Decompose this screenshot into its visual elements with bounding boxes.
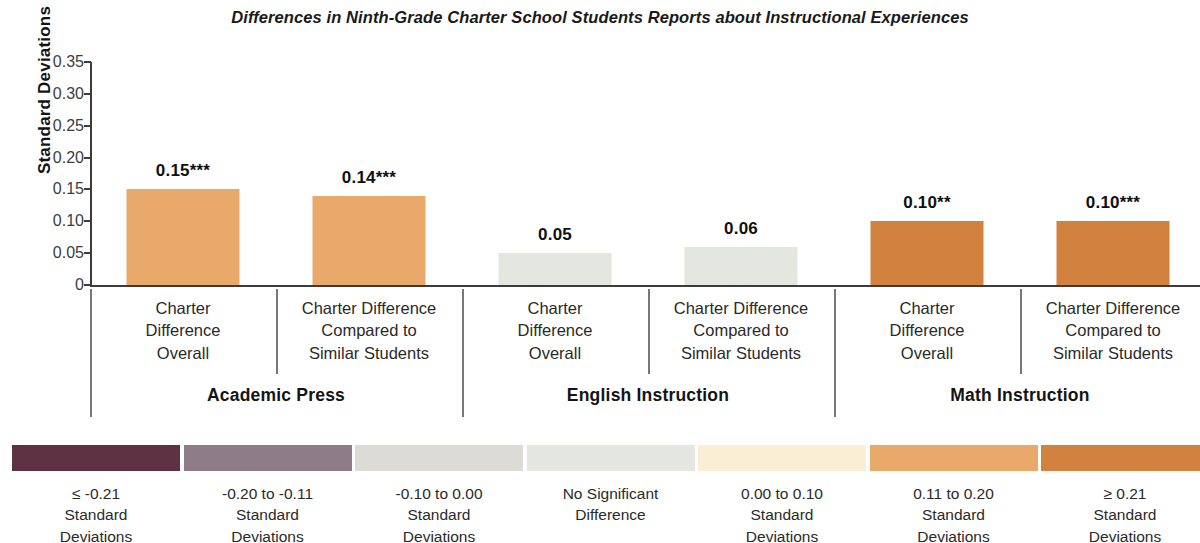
subcolumn-divider <box>648 289 650 374</box>
y-axis-tick-label: 0.25 <box>28 118 84 134</box>
y-axis-tick-label: 0.15 <box>28 181 84 197</box>
legend-color-swatch <box>527 445 695 471</box>
y-axis-tick-label: 0.10 <box>28 213 84 229</box>
bar[interactable] <box>127 189 240 285</box>
category-label: CharterDifferenceOverall <box>462 287 648 379</box>
legend-label: No SignificantDifference <box>527 483 695 526</box>
legend-label-line: Standard <box>184 504 352 525</box>
bar[interactable] <box>1057 221 1170 285</box>
legend-color-swatch <box>1041 445 1200 471</box>
bar-cell: 0.14*** <box>276 62 462 285</box>
bar-value-label: 0.10*** <box>1086 193 1140 213</box>
legend-label-line: 0.11 to 0.20 <box>870 483 1038 504</box>
legend-label-line: Standard <box>12 504 180 525</box>
legend-label: ≥ 0.21StandardDeviations <box>1041 483 1200 543</box>
y-axis-tick-label: 0 <box>28 277 84 293</box>
category-label-line: Compared to <box>1020 319 1200 341</box>
legend-label-line: Deviations <box>184 526 352 543</box>
category-label-line: Difference <box>90 319 276 341</box>
legend-label-line: ≥ 0.21 <box>1041 483 1200 504</box>
bar-value-label: 0.10** <box>903 193 951 213</box>
category-label-band: CharterDifferenceOverallCharter Differen… <box>90 287 1200 379</box>
bar-value-label: 0.14*** <box>342 168 396 188</box>
legend-label-line: Deviations <box>1041 526 1200 543</box>
group-label: Math Instruction <box>834 385 1200 406</box>
category-label-line: Compared to <box>648 319 834 341</box>
category-label: CharterDifferenceOverall <box>834 287 1020 379</box>
legend-label-line: Deviations <box>698 526 866 543</box>
chart-figure: Differences in Ninth-Grade Charter Schoo… <box>0 0 1200 543</box>
category-label: Charter DifferenceCompared toSimilar Stu… <box>1020 287 1200 379</box>
bar-cell: 0.05 <box>462 62 648 285</box>
legend-label-line: Standard <box>1041 504 1200 525</box>
legend-color-swatch <box>184 445 352 471</box>
category-label-line: Charter Difference <box>1020 297 1200 319</box>
group-label: Academic Press <box>90 385 462 406</box>
chart-legend: ≤ -0.21StandardDeviations-0.20 to -0.11S… <box>0 445 1200 543</box>
bar[interactable] <box>685 247 798 285</box>
category-label-line: Charter <box>462 297 648 319</box>
category-label: Charter DifferenceCompared toSimilar Stu… <box>648 287 834 379</box>
group-label-band: Academic PressEnglish InstructionMath In… <box>90 385 1200 419</box>
y-axis-tick-label: 0.20 <box>28 150 84 166</box>
category-label-line: Overall <box>90 342 276 364</box>
legend-label: 0.00 to 0.10StandardDeviations <box>698 483 866 543</box>
category-label-line: Difference <box>462 319 648 341</box>
category-label-line: Similar Students <box>276 342 462 364</box>
legend-label-line: Standard <box>698 504 866 525</box>
category-label-line: Difference <box>834 319 1020 341</box>
category-label-line: Compared to <box>276 319 462 341</box>
y-axis-label: Standard Deviations <box>35 0 55 205</box>
category-label-line: Similar Students <box>1020 342 1200 364</box>
bar-value-label: 0.15*** <box>156 161 210 181</box>
legend-item[interactable]: 0.11 to 0.20StandardDeviations <box>870 445 1038 543</box>
legend-label: 0.11 to 0.20StandardDeviations <box>870 483 1038 543</box>
bar-cell: 0.15*** <box>90 62 276 285</box>
legend-item[interactable]: -0.10 to 0.00StandardDeviations <box>355 445 523 543</box>
legend-label-line: 0.00 to 0.10 <box>698 483 866 504</box>
legend-color-swatch <box>12 445 180 471</box>
legend-color-swatch <box>698 445 866 471</box>
legend-label: ≤ -0.21StandardDeviations <box>12 483 180 543</box>
legend-label-line: Difference <box>527 504 695 525</box>
category-label-line: Overall <box>834 342 1020 364</box>
legend-item[interactable]: ≥ 0.21StandardDeviations <box>1041 445 1200 543</box>
legend-item[interactable]: -0.20 to -0.11StandardDeviations <box>184 445 352 543</box>
bar[interactable] <box>499 253 612 285</box>
legend-label-line: No Significant <box>527 483 695 504</box>
category-label-line: Charter Difference <box>648 297 834 319</box>
legend-label-line: ≤ -0.21 <box>12 483 180 504</box>
group-label: English Instruction <box>462 385 834 406</box>
legend-label-line: -0.20 to -0.11 <box>184 483 352 504</box>
chart-title: Differences in Ninth-Grade Charter Schoo… <box>0 8 1200 27</box>
bars-layer: 0.15***0.14***0.050.060.10**0.10*** <box>90 62 1200 287</box>
legend-item[interactable]: 0.00 to 0.10StandardDeviations <box>698 445 866 543</box>
legend-label-line: Deviations <box>355 526 523 543</box>
category-label-line: Similar Students <box>648 342 834 364</box>
subcolumn-divider <box>1020 289 1022 374</box>
bar[interactable] <box>313 196 426 285</box>
category-label: Charter DifferenceCompared toSimilar Stu… <box>276 287 462 379</box>
legend-label-line: -0.10 to 0.00 <box>355 483 523 504</box>
legend-label-line: Deviations <box>870 526 1038 543</box>
legend-label: -0.20 to -0.11StandardDeviations <box>184 483 352 543</box>
legend-label-line: Deviations <box>12 526 180 543</box>
legend-label: -0.10 to 0.00StandardDeviations <box>355 483 523 543</box>
bar-cell: 0.06 <box>648 62 834 285</box>
y-axis-tick-label: 0.05 <box>28 245 84 261</box>
bar[interactable] <box>871 221 984 285</box>
category-label: CharterDifferenceOverall <box>90 287 276 379</box>
legend-item[interactable]: No SignificantDifference <box>527 445 695 526</box>
legend-label-line: Standard <box>355 504 523 525</box>
bar-cell: 0.10*** <box>1020 62 1200 285</box>
bar-cell: 0.10** <box>834 62 1020 285</box>
category-label-line: Charter <box>90 297 276 319</box>
subcolumn-divider <box>276 289 278 374</box>
bar-value-label: 0.06 <box>724 219 758 239</box>
category-label-line: Charter Difference <box>276 297 462 319</box>
legend-color-swatch <box>355 445 523 471</box>
legend-item[interactable]: ≤ -0.21StandardDeviations <box>12 445 180 543</box>
category-label-line: Charter <box>834 297 1020 319</box>
bar-value-label: 0.05 <box>538 225 572 245</box>
y-axis-tick-label: 0.30 <box>28 86 84 102</box>
